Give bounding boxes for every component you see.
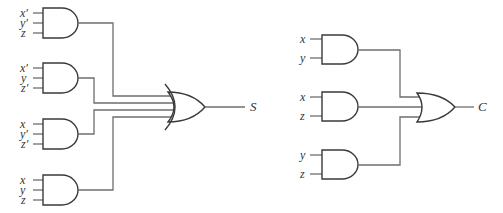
and-gate-c1: x y xyxy=(299,32,358,65)
sum-circuit: x′ y′ z x′ y z′ x y′ z′ xyxy=(19,6,257,207)
input-label: z xyxy=(20,193,26,207)
and-gate-s3: x y′ z′ xyxy=(19,117,78,151)
input-label: y xyxy=(299,51,306,65)
carry-wires xyxy=(358,50,423,165)
or-gate-s: S xyxy=(165,84,257,130)
input-label: y xyxy=(299,148,306,162)
and-gate-s1: x′ y′ z xyxy=(19,6,78,40)
and-gate-c3: y z xyxy=(299,148,358,181)
input-label: z xyxy=(299,109,305,123)
or-gate-c: C xyxy=(417,93,487,122)
and-gate-s4: x y z xyxy=(19,173,78,207)
output-label-s: S xyxy=(250,99,257,114)
input-label: z′ xyxy=(20,137,29,151)
sum-wires xyxy=(78,23,175,190)
and-gate-c2: x z xyxy=(299,90,358,123)
input-label: z xyxy=(20,26,26,40)
input-label: x xyxy=(299,32,306,46)
full-adder-diagram: x′ y′ z x′ y z′ x y′ z′ xyxy=(0,0,503,213)
input-label: z′ xyxy=(20,81,29,95)
and-gate-s2: x′ y z′ xyxy=(19,61,78,95)
output-label-c: C xyxy=(478,99,487,114)
input-label: x xyxy=(299,90,306,104)
carry-circuit: x y x z y z C xyxy=(299,32,487,181)
input-label: z xyxy=(299,167,305,181)
